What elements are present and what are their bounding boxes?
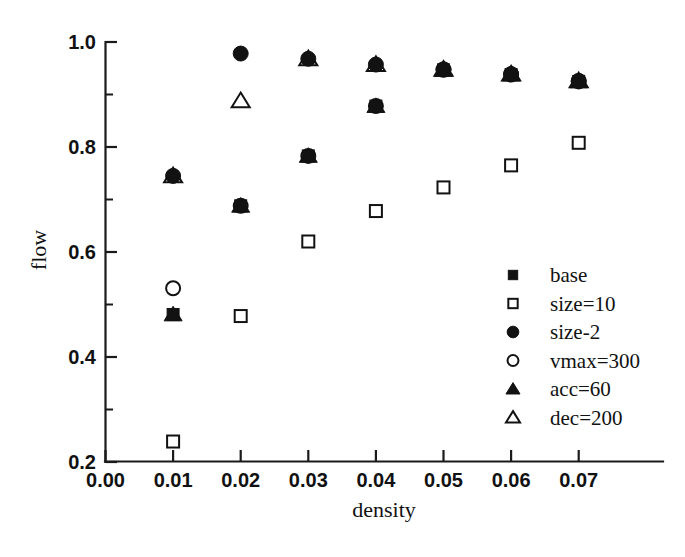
legend-marker-filled-circle — [507, 326, 519, 338]
legend: basesize=10size-2vmax=300acc=60dec=200 — [506, 263, 640, 430]
data-point — [232, 93, 250, 108]
legend-label: dec=200 — [550, 406, 623, 430]
data-point — [573, 137, 585, 149]
data-point — [166, 281, 180, 295]
y-axis-ticks — [106, 42, 118, 462]
data-point — [368, 57, 383, 72]
data-point — [301, 51, 316, 66]
y-tick-label: 0.8 — [68, 136, 96, 158]
series-size-2 — [166, 46, 587, 183]
scatter-plot: 0.20.40.60.81.0 0.000.010.020.030.040.05… — [0, 0, 685, 557]
data-point — [302, 150, 314, 162]
y-tick-label: 0.6 — [68, 241, 96, 263]
data-point — [504, 67, 519, 82]
data-point — [438, 181, 450, 193]
x-tick-label: 0.05 — [424, 469, 463, 491]
data-point — [167, 308, 179, 320]
x-axis-ticks — [106, 450, 579, 462]
data-point — [436, 62, 451, 77]
data-point — [235, 200, 247, 212]
chart-root: 0.20.40.60.81.0 0.000.010.020.030.040.05… — [0, 0, 685, 557]
x-tick-label: 0.00 — [86, 469, 125, 491]
x-axis-tick-labels: 0.000.010.020.030.040.050.060.07 — [86, 469, 598, 491]
y-axis-tick-labels: 0.20.40.60.81.0 — [68, 31, 97, 473]
legend-label: vmax=300 — [550, 349, 640, 373]
legend-label: base — [550, 263, 587, 287]
series-size-10 — [167, 137, 585, 448]
legend-label: acc=60 — [550, 377, 611, 401]
data-point — [505, 159, 517, 171]
legend-label: size=10 — [550, 292, 616, 316]
x-tick-label: 0.07 — [559, 469, 598, 491]
series-base — [167, 64, 585, 321]
legend-marker-open-square — [508, 299, 517, 308]
data-point — [571, 73, 586, 88]
y-tick-label: 1.0 — [68, 31, 96, 53]
legend-marker-open-triangle — [506, 411, 520, 422]
data-point — [370, 100, 382, 112]
x-tick-label: 0.06 — [492, 469, 531, 491]
legend-label: size-2 — [550, 320, 600, 344]
data-point — [302, 236, 314, 248]
data-point — [233, 46, 248, 61]
x-tick-label: 0.03 — [289, 469, 328, 491]
data-point — [235, 310, 247, 322]
data-points-group — [164, 46, 588, 447]
legend-marker-filled-triangle — [506, 383, 520, 394]
y-axis-title: flow — [26, 230, 51, 270]
data-point — [167, 436, 179, 448]
data-point — [370, 205, 382, 217]
x-tick-label: 0.04 — [356, 469, 396, 491]
y-tick-label: 0.4 — [68, 346, 97, 368]
x-tick-label: 0.01 — [154, 469, 193, 491]
legend-marker-filled-square — [508, 270, 517, 279]
legend-marker-open-circle — [508, 355, 519, 366]
data-point — [166, 168, 181, 183]
x-tick-label: 0.02 — [221, 469, 260, 491]
x-axis-title: density — [352, 497, 416, 522]
